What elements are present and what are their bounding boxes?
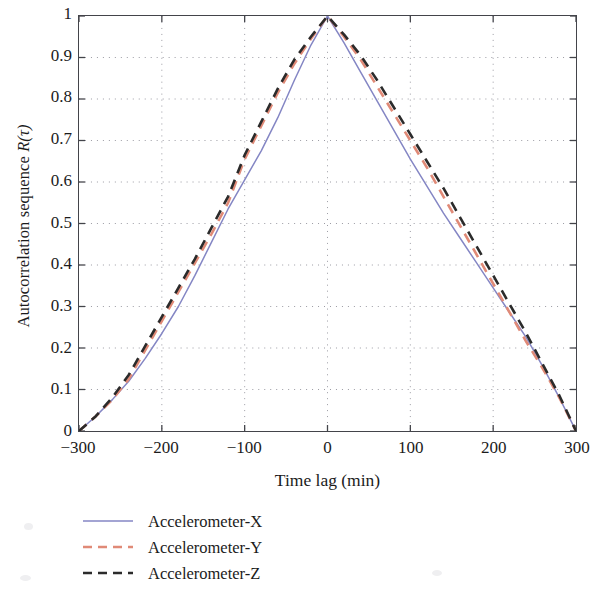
y-axis-tick: 0.9 [0, 46, 82, 66]
legend-swatch-icon [82, 515, 134, 529]
chart-legend: Accelerometer-XAccelerometer-YAccelerome… [82, 509, 262, 587]
legend-label: Accelerometer-X [148, 514, 262, 531]
y-axis-tick: 1 [0, 4, 82, 24]
x-axis-tick: 0 [283, 438, 373, 458]
x-axis-tick: −100 [199, 438, 289, 458]
legend-item[interactable]: Accelerometer-Y [82, 535, 262, 561]
y-axis-tick: 0.8 [0, 87, 82, 107]
legend-swatch-icon [82, 541, 134, 555]
y-axis-tick: 0.1 [0, 379, 82, 399]
x-axis-tick: −300 [33, 438, 123, 458]
x-axis-label: Time lag (min) [78, 470, 577, 491]
data-curves [79, 16, 576, 431]
legend-label: Accelerometer-Z [148, 566, 260, 583]
scan-artifact [20, 575, 31, 581]
legend-item[interactable]: Accelerometer-X [82, 509, 262, 535]
x-axis-tick: 300 [532, 438, 603, 458]
plot-area [78, 15, 577, 432]
x-axis-tick: 100 [366, 438, 456, 458]
y-axis-tick: 0.6 [0, 171, 82, 191]
legend-item[interactable]: Accelerometer-Z [82, 561, 262, 587]
x-axis-tick: 200 [449, 438, 539, 458]
y-axis-tick: 0.5 [0, 213, 82, 233]
legend-label: Accelerometer-Y [148, 540, 262, 557]
y-axis-tick: 0.4 [0, 254, 82, 274]
y-axis-tick: 0.7 [0, 129, 82, 149]
legend-swatch-icon [82, 567, 134, 581]
figure-canvas: Autocorrelation sequence R(τ) 00.10.20.3… [0, 0, 603, 591]
y-axis-tick: 0.2 [0, 338, 82, 358]
x-axis-tick: −200 [116, 438, 206, 458]
scan-artifact [432, 570, 442, 576]
scan-artifact [24, 523, 33, 530]
y-axis-tick: 0.3 [0, 296, 82, 316]
